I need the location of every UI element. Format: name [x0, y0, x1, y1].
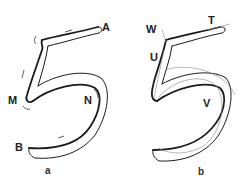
caption-a: a — [45, 165, 51, 176]
label-m: M — [8, 94, 17, 106]
digit-five-outline-b — [152, 27, 231, 161]
label-b-end: B — [15, 141, 23, 153]
caption-b: b — [198, 166, 204, 177]
panel-a: A M N B a — [8, 21, 110, 176]
label-v: V — [203, 97, 211, 109]
label-a-start: A — [102, 21, 110, 33]
digit-five-diagram: A M N B a W T U V b — [0, 0, 244, 184]
label-u: U — [150, 51, 158, 63]
label-w: W — [146, 23, 157, 35]
label-n: N — [84, 94, 92, 106]
direction-marks-a — [22, 30, 98, 138]
label-t: T — [208, 14, 215, 26]
panel-b: W T U V b — [146, 14, 235, 177]
digit-five-outline-a — [26, 27, 107, 158]
